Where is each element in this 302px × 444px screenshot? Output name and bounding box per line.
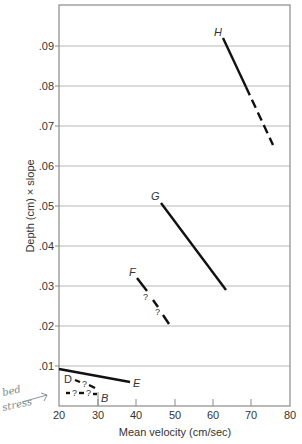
x-axis-title: Mean velocity (cm/sec)	[119, 426, 231, 438]
x-tick-label: 30	[92, 409, 104, 421]
y-tick-label: .05	[39, 200, 54, 212]
series-d-label: D	[64, 373, 72, 385]
handwritten-annotation: bed stress	[1, 383, 47, 413]
annotation-line1: bed	[1, 383, 22, 398]
x-tick-label: 60	[207, 409, 219, 421]
series-g: G	[151, 190, 226, 290]
y-tick-label: .01	[39, 360, 54, 372]
y-axis: .09 .08 .07 .06 .05 .04 .03 .02 .01	[39, 40, 59, 372]
annotation-line2: stress	[1, 396, 33, 413]
chart: .09 .08 .07 .06 .05 .04 .03 .02 .01 20 3…	[0, 0, 302, 444]
series-h-label: H	[214, 26, 222, 38]
series-b-label: B	[101, 392, 108, 404]
series-f-label: F	[129, 266, 137, 278]
x-tick-label: 20	[53, 409, 65, 421]
uncertain-mark: ?	[86, 388, 91, 398]
x-axis: 20 30 40 50 60 70 80	[53, 399, 296, 421]
uncertain-mark: ?	[143, 292, 148, 302]
x-tick-label: 50	[169, 409, 181, 421]
uncertain-mark: ?	[155, 307, 160, 317]
series-f: F ? ?	[129, 266, 169, 324]
gridlines	[59, 46, 290, 366]
series-e-label: E	[133, 377, 141, 389]
x-tick-label: 40	[130, 409, 142, 421]
series-b: ? ? B	[66, 388, 108, 406]
x-tick-label: 70	[245, 409, 257, 421]
series-g-label: G	[151, 190, 160, 202]
uncertain-mark: ?	[72, 388, 77, 398]
x-tick-label: 80	[284, 409, 296, 421]
y-tick-label: .04	[39, 240, 54, 252]
y-tick-label: .03	[39, 280, 54, 292]
y-axis-title: Depth (cm) × slope	[24, 159, 36, 252]
y-tick-label: .02	[39, 320, 54, 332]
y-tick-label: .07	[39, 120, 54, 132]
y-tick-label: .08	[39, 80, 54, 92]
y-tick-label: .09	[39, 40, 54, 52]
y-tick-label: .06	[39, 160, 54, 172]
